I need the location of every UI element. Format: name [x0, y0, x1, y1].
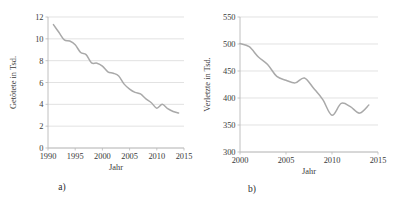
- figure-container: 024681012199019952000200520102015JahrGet…: [0, 0, 394, 206]
- x-tick-label: 2015: [370, 156, 387, 165]
- y-axis-title: Verletzte in Tsd.: [203, 57, 212, 111]
- y-tick-label: 450: [223, 67, 236, 76]
- y-tick-label: 10: [35, 35, 43, 44]
- x-tick-label: 2005: [278, 156, 295, 165]
- data-series-line: [240, 43, 369, 115]
- x-tick-label: 2000: [94, 152, 111, 161]
- y-axis-title: Getötete in Tsd.: [9, 56, 18, 109]
- panel-label-b: b): [248, 184, 256, 195]
- x-tick-label: 2005: [121, 152, 138, 161]
- y-tick-label: 12: [35, 13, 43, 22]
- panel-label-a: a): [58, 182, 65, 193]
- x-tick-label: 1990: [40, 152, 57, 161]
- chart-panel-b: 3003504004505005502000200520102015JahrVe…: [197, 0, 394, 206]
- line-chart-b: 3003504004505005502000200520102015JahrVe…: [197, 0, 394, 206]
- y-tick-label: 4: [39, 100, 44, 109]
- chart-panel-a: 024681012199019952000200520102015JahrGet…: [0, 0, 197, 206]
- x-tick-label: 1995: [67, 152, 84, 161]
- line-chart-a: 024681012199019952000200520102015JahrGet…: [0, 0, 197, 206]
- y-tick-label: 8: [39, 57, 43, 66]
- y-tick-label: 2: [39, 122, 43, 131]
- y-tick-label: 350: [223, 121, 236, 130]
- y-tick-label: 400: [223, 94, 236, 103]
- x-axis-title: Jahr: [109, 163, 123, 172]
- y-tick-label: 500: [223, 40, 236, 49]
- x-tick-label: 2015: [176, 152, 193, 161]
- x-tick-label: 2010: [148, 152, 165, 161]
- x-tick-label: 2000: [232, 156, 249, 165]
- x-axis-title: Jahr: [302, 167, 316, 176]
- data-series-line: [53, 25, 178, 113]
- y-tick-label: 6: [39, 79, 43, 88]
- y-tick-label: 550: [223, 13, 236, 22]
- x-tick-label: 2010: [324, 156, 341, 165]
